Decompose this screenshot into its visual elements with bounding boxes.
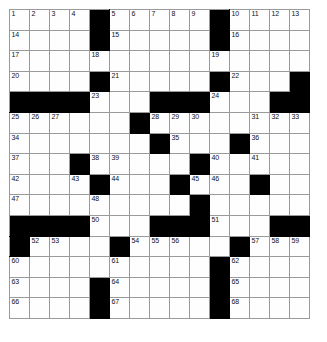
crossword-cell[interactable]: 47 — [10, 195, 30, 216]
crossword-cell[interactable]: 26 — [30, 112, 50, 133]
crossword-cell[interactable]: 37 — [10, 154, 30, 175]
crossword-cell[interactable]: 39 — [110, 154, 130, 175]
crossword-cell[interactable] — [210, 236, 230, 257]
crossword-grid[interactable]: 1234567891011121314151617181920212223242… — [9, 9, 310, 319]
crossword-cell[interactable] — [50, 257, 70, 278]
crossword-cell[interactable] — [290, 154, 310, 175]
crossword-cell[interactable] — [270, 30, 290, 51]
crossword-cell[interactable]: 14 — [10, 30, 30, 51]
crossword-cell[interactable]: 1 — [10, 10, 30, 31]
crossword-cell[interactable] — [170, 195, 190, 216]
crossword-cell[interactable]: 2 — [30, 10, 50, 31]
crossword-cell[interactable] — [250, 51, 270, 72]
crossword-cell[interactable]: 38 — [90, 154, 110, 175]
crossword-cell[interactable]: 55 — [150, 236, 170, 257]
crossword-cell[interactable] — [190, 51, 210, 72]
crossword-cell[interactable] — [70, 112, 90, 133]
crossword-cell[interactable] — [290, 30, 310, 51]
crossword-cell[interactable] — [190, 298, 210, 319]
crossword-cell[interactable] — [230, 92, 250, 113]
crossword-cell[interactable]: 50 — [90, 215, 110, 236]
crossword-cell[interactable]: 34 — [10, 133, 30, 154]
crossword-cell[interactable] — [230, 112, 250, 133]
crossword-cell[interactable]: 5 — [110, 10, 130, 31]
crossword-cell[interactable]: 57 — [250, 236, 270, 257]
crossword-cell[interactable] — [250, 257, 270, 278]
crossword-cell[interactable]: 27 — [50, 112, 70, 133]
crossword-cell[interactable] — [130, 133, 150, 154]
crossword-cell[interactable] — [70, 195, 90, 216]
crossword-cell[interactable] — [290, 298, 310, 319]
crossword-cell[interactable] — [90, 236, 110, 257]
crossword-cell[interactable] — [70, 236, 90, 257]
crossword-cell[interactable] — [30, 174, 50, 195]
crossword-cell[interactable]: 18 — [90, 51, 110, 72]
crossword-cell[interactable]: 19 — [210, 51, 230, 72]
crossword-cell[interactable] — [250, 195, 270, 216]
crossword-cell[interactable] — [290, 277, 310, 298]
crossword-cell[interactable] — [30, 298, 50, 319]
crossword-cell[interactable] — [70, 257, 90, 278]
crossword-cell[interactable] — [170, 277, 190, 298]
crossword-cell[interactable] — [150, 257, 170, 278]
crossword-cell[interactable]: 51 — [210, 215, 230, 236]
crossword-cell[interactable] — [130, 154, 150, 175]
crossword-cell[interactable] — [30, 154, 50, 175]
crossword-cell[interactable]: 53 — [50, 236, 70, 257]
crossword-cell[interactable]: 68 — [230, 298, 250, 319]
crossword-cell[interactable]: 40 — [210, 154, 230, 175]
crossword-cell[interactable] — [130, 51, 150, 72]
crossword-cell[interactable] — [170, 154, 190, 175]
crossword-cell[interactable]: 67 — [110, 298, 130, 319]
crossword-cell[interactable]: 54 — [130, 236, 150, 257]
crossword-cell[interactable] — [170, 257, 190, 278]
crossword-cell[interactable] — [150, 154, 170, 175]
crossword-cell[interactable] — [50, 277, 70, 298]
crossword-cell[interactable] — [270, 298, 290, 319]
crossword-cell[interactable] — [170, 30, 190, 51]
crossword-cell[interactable]: 4 — [70, 10, 90, 31]
crossword-cell[interactable] — [250, 71, 270, 92]
crossword-cell[interactable] — [110, 51, 130, 72]
crossword-cell[interactable] — [150, 71, 170, 92]
crossword-cell[interactable] — [230, 215, 250, 236]
crossword-cell[interactable]: 28 — [150, 112, 170, 133]
crossword-cell[interactable] — [50, 71, 70, 92]
crossword-cell[interactable] — [210, 112, 230, 133]
crossword-cell[interactable]: 35 — [170, 133, 190, 154]
crossword-cell[interactable] — [190, 236, 210, 257]
crossword-cell[interactable]: 12 — [270, 10, 290, 31]
crossword-cell[interactable]: 10 — [230, 10, 250, 31]
crossword-cell[interactable] — [210, 195, 230, 216]
crossword-cell[interactable]: 60 — [10, 257, 30, 278]
crossword-cell[interactable]: 66 — [10, 298, 30, 319]
crossword-cell[interactable] — [70, 51, 90, 72]
crossword-cell[interactable] — [150, 30, 170, 51]
crossword-cell[interactable]: 7 — [150, 10, 170, 31]
crossword-cell[interactable] — [50, 51, 70, 72]
crossword-cell[interactable]: 58 — [270, 236, 290, 257]
crossword-cell[interactable]: 59 — [290, 236, 310, 257]
crossword-cell[interactable] — [290, 257, 310, 278]
crossword-cell[interactable] — [70, 71, 90, 92]
crossword-cell[interactable] — [130, 195, 150, 216]
crossword-cell[interactable] — [70, 277, 90, 298]
crossword-cell[interactable] — [130, 298, 150, 319]
crossword-cell[interactable]: 29 — [170, 112, 190, 133]
crossword-cell[interactable] — [270, 71, 290, 92]
crossword-cell[interactable] — [30, 277, 50, 298]
crossword-cell[interactable] — [270, 277, 290, 298]
crossword-cell[interactable]: 44 — [110, 174, 130, 195]
crossword-cell[interactable] — [30, 195, 50, 216]
crossword-cell[interactable] — [50, 195, 70, 216]
crossword-cell[interactable]: 61 — [110, 257, 130, 278]
crossword-cell[interactable]: 23 — [90, 92, 110, 113]
crossword-cell[interactable] — [130, 277, 150, 298]
crossword-cell[interactable] — [130, 174, 150, 195]
crossword-cell[interactable] — [50, 133, 70, 154]
crossword-cell[interactable] — [130, 215, 150, 236]
crossword-cell[interactable]: 48 — [90, 195, 110, 216]
crossword-cell[interactable]: 41 — [250, 154, 270, 175]
crossword-cell[interactable]: 52 — [30, 236, 50, 257]
crossword-cell[interactable] — [270, 154, 290, 175]
